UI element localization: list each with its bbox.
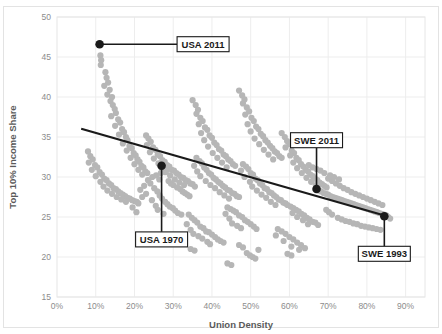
scatter-point bbox=[86, 160, 92, 166]
scatter-point bbox=[253, 226, 259, 232]
scatter-point bbox=[238, 225, 244, 231]
scatter-point bbox=[261, 147, 267, 153]
scatter-point bbox=[282, 144, 288, 150]
highlighted-point bbox=[95, 40, 104, 49]
scatter-point bbox=[302, 245, 308, 251]
x-tick-label: 40% bbox=[203, 301, 220, 311]
scatter-chart: 0%10%20%30%40%50%60%70%80%90% 1520253035… bbox=[0, 0, 442, 334]
scatter-point bbox=[149, 197, 155, 203]
scatter-point bbox=[131, 161, 137, 167]
x-tick-label: 70% bbox=[320, 301, 337, 311]
x-axis-ticks: 0%10%20%30%40%50%60%70%80%90% bbox=[51, 301, 415, 311]
scatter-point bbox=[123, 199, 129, 205]
scatter-point bbox=[89, 167, 95, 173]
scatter-point bbox=[219, 160, 225, 166]
scatter-point bbox=[191, 163, 197, 169]
scatter-point bbox=[252, 256, 258, 262]
scatter-point bbox=[300, 217, 306, 223]
scatter-point bbox=[222, 211, 228, 217]
scatter-point bbox=[93, 173, 99, 179]
highlighted-point bbox=[380, 212, 389, 221]
scatter-point bbox=[251, 118, 257, 124]
scatter-point bbox=[101, 83, 107, 89]
x-tick-label: 10% bbox=[87, 301, 104, 311]
annotation-label: SWE 1993 bbox=[362, 248, 407, 259]
scatter-point bbox=[290, 160, 296, 166]
scatter-point bbox=[128, 155, 134, 161]
scatter-point bbox=[299, 170, 305, 176]
scatter-point bbox=[294, 214, 300, 220]
scatter-point bbox=[155, 207, 161, 213]
scatter-point bbox=[191, 248, 197, 254]
scatter-point bbox=[178, 212, 184, 218]
scatter-point bbox=[129, 204, 135, 210]
scatter-point bbox=[255, 247, 261, 253]
scatter-point bbox=[192, 184, 198, 190]
y-axis-title: Top 10% Income Share bbox=[7, 105, 18, 208]
x-axis-title: Union Density bbox=[209, 319, 274, 330]
scatter-point bbox=[135, 167, 141, 173]
scatter-point bbox=[323, 207, 329, 213]
scatter-point bbox=[98, 62, 104, 68]
scatter-point bbox=[270, 156, 276, 162]
scatter-point bbox=[296, 247, 302, 253]
scatter-point bbox=[281, 238, 287, 244]
scatter-point bbox=[273, 232, 279, 238]
x-tick-label: 30% bbox=[165, 301, 182, 311]
x-tick-label: 60% bbox=[281, 301, 298, 311]
scatter-point bbox=[205, 144, 211, 150]
annotation-label: SWE 2011 bbox=[294, 135, 340, 146]
scatter-point bbox=[116, 132, 122, 138]
scatter-point bbox=[288, 244, 294, 250]
scatter-point bbox=[196, 121, 202, 127]
scatter-point bbox=[214, 155, 220, 161]
scatter-point bbox=[251, 136, 257, 142]
scatter-point bbox=[244, 121, 250, 127]
scatter-point bbox=[102, 69, 108, 75]
scatter-point bbox=[133, 209, 139, 215]
y-tick-label: 50 bbox=[42, 12, 52, 22]
scatter-point bbox=[226, 196, 232, 202]
y-tick-label: 30 bbox=[42, 172, 52, 182]
y-tick-label: 35 bbox=[42, 132, 52, 142]
y-axis-ticks: 1520253035404550 bbox=[42, 12, 52, 302]
scatter-point bbox=[315, 222, 321, 228]
x-tick-label: 50% bbox=[242, 301, 259, 311]
scatter-point bbox=[204, 127, 210, 133]
scatter-point bbox=[201, 137, 207, 143]
scatter-point bbox=[294, 165, 300, 171]
x-tick-label: 90% bbox=[397, 301, 414, 311]
annotation-label: USA 1970 bbox=[140, 234, 183, 245]
scatter-point bbox=[232, 163, 238, 169]
scatter-point bbox=[197, 173, 203, 179]
scatter-point bbox=[135, 200, 141, 206]
scatter-point bbox=[305, 221, 311, 227]
scatter-point bbox=[228, 262, 234, 268]
scatter-point bbox=[336, 176, 342, 182]
annotation-label: USA 2011 bbox=[182, 39, 226, 50]
x-tick-label: 20% bbox=[126, 301, 143, 311]
scatter-point bbox=[287, 152, 293, 158]
scatter-point bbox=[288, 252, 294, 258]
y-tick-label: 20 bbox=[42, 252, 52, 262]
highlighted-point bbox=[312, 185, 321, 194]
scatter-point bbox=[324, 184, 330, 190]
highlighted-point bbox=[157, 162, 166, 171]
y-tick-label: 25 bbox=[42, 212, 52, 222]
scatter-point bbox=[139, 194, 145, 200]
x-tick-label: 80% bbox=[358, 301, 375, 311]
chart-figure: 0%10%20%30%40%50%60%70%80%90% 1520253035… bbox=[0, 0, 442, 334]
scatter-point bbox=[242, 112, 248, 118]
scatter-point bbox=[207, 241, 213, 247]
y-tick-label: 45 bbox=[42, 52, 52, 62]
x-tick-label: 0% bbox=[51, 301, 64, 311]
y-tick-label: 15 bbox=[42, 292, 52, 302]
scatter-point bbox=[279, 155, 285, 161]
scatter-point bbox=[151, 156, 157, 162]
scatter-point bbox=[248, 128, 254, 134]
scatter-point bbox=[321, 170, 327, 176]
scatter-point bbox=[137, 187, 143, 193]
scatter-point bbox=[272, 202, 278, 208]
scatter-point bbox=[240, 244, 246, 250]
scatter-point bbox=[186, 193, 192, 199]
